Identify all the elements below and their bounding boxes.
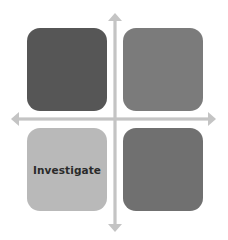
arrow-right-icon (208, 112, 216, 126)
quadrant-bottom-right (123, 128, 203, 211)
vertical-axis-line (113, 20, 116, 225)
quadrant-bottom-left-label: Investigate (33, 164, 101, 176)
arrow-left-icon (11, 112, 19, 126)
arrow-up-icon (108, 13, 122, 21)
quadrant-bottom-left: Investigate (27, 128, 107, 211)
horizontal-axis-line (18, 117, 209, 120)
quadrant-top-right (123, 28, 203, 111)
quadrant-top-left (27, 28, 107, 111)
arrow-down-icon (108, 224, 122, 232)
